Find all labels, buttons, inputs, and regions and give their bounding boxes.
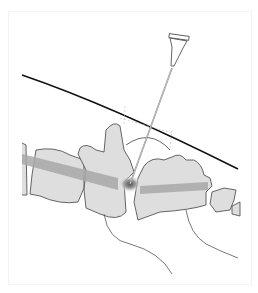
tissue-line-left [104, 214, 172, 274]
spine-needle-illustration [0, 0, 258, 293]
vertebra-5 [232, 202, 240, 216]
spinal-canal-arc [126, 138, 170, 150]
tissue-line-right [186, 210, 238, 258]
needle-hub-icon [170, 38, 187, 66]
vertebra-edge-left [22, 143, 27, 195]
